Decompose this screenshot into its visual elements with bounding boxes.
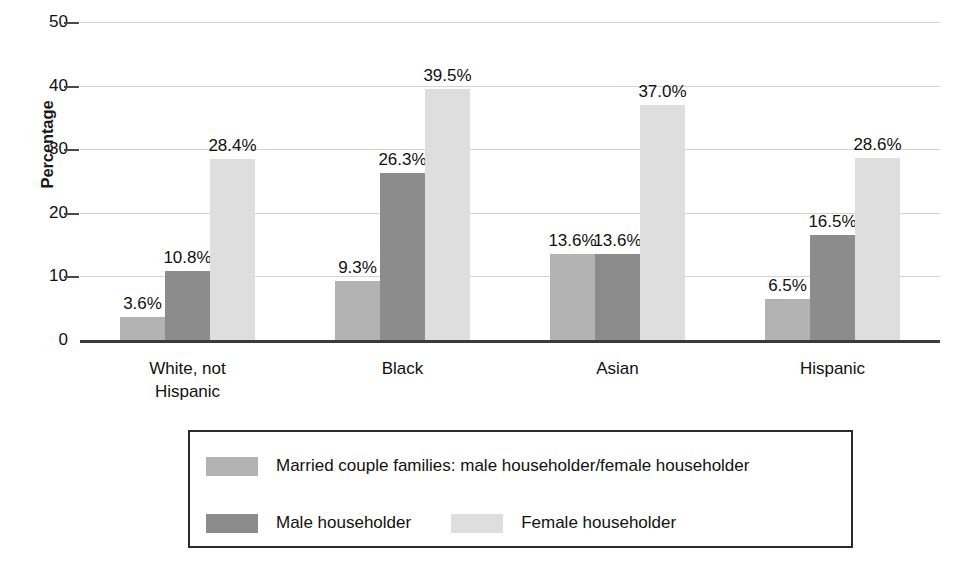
y-axis-tick-label: 10 bbox=[22, 267, 68, 284]
bar-value-label: 16.5% bbox=[808, 213, 856, 230]
bar-slot: 28.6% bbox=[855, 22, 900, 340]
x-axis-category-label: Asian bbox=[510, 358, 725, 381]
bar-slot: 6.5% bbox=[765, 22, 810, 340]
x-axis-baseline bbox=[80, 340, 940, 343]
x-axis-category-label: Hispanic bbox=[725, 358, 940, 381]
bar-value-label: 39.5% bbox=[423, 67, 471, 84]
legend-swatch bbox=[451, 514, 503, 533]
bar-group-bars: 3.6%10.8%28.4% bbox=[120, 22, 255, 340]
bar-group-bars: 9.3%26.3%39.5% bbox=[335, 22, 470, 340]
legend-swatch bbox=[206, 457, 258, 476]
bar-value-label: 37.0% bbox=[638, 83, 686, 100]
bar-slot: 16.5% bbox=[810, 22, 855, 340]
bar-value-label: 10.8% bbox=[163, 249, 211, 266]
legend-swatch bbox=[206, 514, 258, 533]
bar-slot: 13.6% bbox=[595, 22, 640, 340]
bar[interactable] bbox=[210, 159, 255, 340]
bar[interactable] bbox=[165, 271, 210, 340]
bar-slot: 13.6% bbox=[550, 22, 595, 340]
y-axis-tick-label: 20 bbox=[22, 204, 68, 221]
bar-value-label: 9.3% bbox=[338, 259, 377, 276]
x-axis-category-label-line: Asian bbox=[510, 358, 725, 381]
bar-group-bars: 13.6%13.6%37.0% bbox=[550, 22, 685, 340]
y-axis-tick-label: 30 bbox=[22, 140, 68, 157]
legend-item[interactable]: Married couple families: male householde… bbox=[206, 456, 749, 476]
bar[interactable] bbox=[810, 235, 855, 340]
bar-group: 6.5%16.5%28.6% bbox=[765, 22, 900, 340]
x-axis-category-label-line: Hispanic bbox=[80, 381, 295, 404]
bar-slot: 10.8% bbox=[165, 22, 210, 340]
bar[interactable] bbox=[855, 158, 900, 340]
legend-label: Male householder bbox=[276, 513, 411, 533]
x-axis-category-label-line: White, not bbox=[80, 358, 295, 381]
bar-value-label: 26.3% bbox=[378, 151, 426, 168]
y-axis-tick-mark bbox=[64, 86, 79, 88]
bar-slot: 26.3% bbox=[380, 22, 425, 340]
x-axis-category-label: Black bbox=[295, 358, 510, 381]
bar-value-label: 28.4% bbox=[208, 137, 256, 154]
bar-value-label: 13.6% bbox=[593, 232, 641, 249]
bar[interactable] bbox=[595, 254, 640, 340]
y-axis-tick-label: 50 bbox=[22, 13, 68, 30]
bar-value-label: 13.6% bbox=[548, 232, 596, 249]
y-axis-tick-label: 40 bbox=[22, 77, 68, 94]
bar-value-label: 28.6% bbox=[853, 136, 901, 153]
legend-label: Married couple families: male householde… bbox=[276, 456, 749, 476]
bar-chart: Percentage 01020304050 3.6%10.8%28.4%9.3… bbox=[0, 0, 961, 569]
legend-row-2: Male householderFemale householder bbox=[206, 513, 676, 533]
bar[interactable] bbox=[425, 89, 470, 340]
bar-group: 3.6%10.8%28.4% bbox=[120, 22, 255, 340]
y-axis-tick-mark bbox=[64, 276, 79, 278]
legend-item[interactable]: Male householder bbox=[206, 513, 411, 533]
legend-label: Female householder bbox=[521, 513, 676, 533]
legend: Married couple families: male householde… bbox=[188, 430, 853, 548]
x-axis-category-label-line: Black bbox=[295, 358, 510, 381]
y-axis-tick-label: 0 bbox=[22, 331, 68, 348]
y-axis-tick-mark bbox=[64, 22, 79, 24]
bar[interactable] bbox=[120, 317, 165, 340]
bar-value-label: 3.6% bbox=[123, 295, 162, 312]
x-axis-category-label-line: Hispanic bbox=[725, 358, 940, 381]
bar-slot: 39.5% bbox=[425, 22, 470, 340]
bar-slot: 9.3% bbox=[335, 22, 380, 340]
y-axis-tick-mark bbox=[64, 213, 79, 215]
bar-slot: 37.0% bbox=[640, 22, 685, 340]
x-axis-category-label: White, notHispanic bbox=[80, 358, 295, 404]
bar[interactable] bbox=[765, 299, 810, 340]
bar[interactable] bbox=[335, 281, 380, 340]
bar[interactable] bbox=[380, 173, 425, 340]
bar[interactable] bbox=[640, 105, 685, 340]
bar-group: 13.6%13.6%37.0% bbox=[550, 22, 685, 340]
bar-value-label: 6.5% bbox=[768, 277, 807, 294]
y-axis-tick-mark bbox=[64, 149, 79, 151]
legend-item[interactable]: Female householder bbox=[451, 513, 676, 533]
plot-area: 3.6%10.8%28.4%9.3%26.3%39.5%13.6%13.6%37… bbox=[80, 22, 940, 340]
bar-group: 9.3%26.3%39.5% bbox=[335, 22, 470, 340]
bar-group-bars: 6.5%16.5%28.6% bbox=[765, 22, 900, 340]
bar[interactable] bbox=[550, 254, 595, 340]
bar-slot: 28.4% bbox=[210, 22, 255, 340]
bar-slot: 3.6% bbox=[120, 22, 165, 340]
legend-row-1: Married couple families: male householde… bbox=[206, 456, 749, 476]
